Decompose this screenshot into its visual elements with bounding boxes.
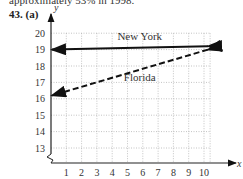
x-tick-label: 7 — [156, 167, 161, 178]
x-axis-label: x — [236, 158, 242, 169]
x-tick-label: 10 — [199, 167, 209, 178]
y-tick-label: 17 — [35, 77, 45, 88]
x-tick-label: 9 — [186, 167, 191, 178]
x-tick-label: 6 — [140, 167, 145, 178]
x-tick-label: 5 — [125, 167, 130, 178]
series-annotation: New York — [117, 30, 162, 42]
x-tick-label: 1 — [64, 167, 69, 178]
series-line-new-york — [52, 46, 208, 49]
y-tick-label: 14 — [35, 126, 45, 137]
y-tick-label: 20 — [35, 28, 45, 39]
x-tick-label: 2 — [79, 167, 84, 178]
x-tick-label: 3 — [94, 167, 99, 178]
axis-break-icon — [47, 154, 53, 163]
series-annotation: Florida — [124, 71, 156, 83]
y-tick-label: 15 — [35, 110, 45, 121]
x-tick-label: 8 — [171, 167, 176, 178]
y-tick-label: 18 — [35, 61, 45, 72]
y-tick-label: 13 — [35, 143, 45, 154]
x-tick-label: 4 — [110, 167, 115, 178]
line-chart: xy123456789101314151617181920New YorkFlo… — [0, 0, 243, 179]
y-tick-label: 19 — [35, 44, 45, 55]
y-tick-label: 16 — [35, 93, 45, 104]
y-axis-label: y — [53, 2, 59, 13]
